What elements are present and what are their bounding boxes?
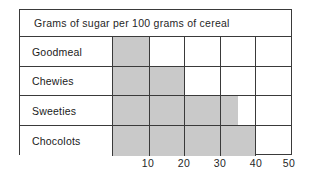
row-label-text: Chocolots	[20, 135, 81, 147]
sugar-content-bar-chart: Grams of sugar per 100 grams of cereal G…	[0, 0, 313, 182]
gridline-40	[255, 96, 256, 125]
x-tick-20: 20	[178, 157, 190, 169]
table-row: Sweeties	[20, 96, 291, 126]
chart-title: Grams of sugar per 100 grams of cereal	[20, 17, 230, 29]
gridline-30	[220, 67, 221, 95]
chart-title-row: Grams of sugar per 100 grams of cereal	[20, 10, 291, 37]
table-row: Chocolots	[20, 126, 291, 156]
bar-goodmeal	[113, 37, 149, 66]
gridline-10	[149, 96, 150, 125]
gridline-10	[149, 126, 150, 156]
chart-frame: Grams of sugar per 100 grams of cereal G…	[19, 9, 292, 155]
x-tick-30: 30	[214, 157, 226, 169]
row-label-sweeties: Sweeties	[20, 96, 113, 125]
gridline-40	[255, 37, 256, 66]
gridline-30	[220, 37, 221, 66]
chart-body: Goodmeal Chewies	[20, 37, 291, 156]
table-row: Goodmeal	[20, 37, 291, 67]
x-tick-10: 10	[142, 157, 154, 169]
gridline-20	[184, 67, 185, 95]
x-tick-50: 50	[283, 157, 295, 169]
gridline-20	[184, 37, 185, 66]
row-label-chewies: Chewies	[20, 67, 113, 95]
row-label-text: Chewies	[20, 75, 74, 87]
gridline-20	[184, 96, 185, 125]
gridline-40	[255, 67, 256, 95]
gridline-20	[184, 126, 185, 156]
row-plot-chewies	[113, 67, 291, 95]
row-plot-goodmeal	[113, 37, 291, 66]
table-row: Chewies	[20, 67, 291, 96]
row-label-text: Sweeties	[20, 105, 76, 117]
gridline-10	[149, 67, 150, 95]
row-label-goodmeal: Goodmeal	[20, 37, 113, 66]
gridline-30	[220, 96, 221, 125]
gridline-40	[255, 126, 256, 156]
row-plot-chocolots	[113, 126, 291, 156]
row-label-chocolots: Chocolots	[20, 126, 113, 156]
gridline-10	[149, 37, 150, 66]
row-plot-sweeties	[113, 96, 291, 125]
x-tick-40: 40	[250, 157, 262, 169]
gridline-30	[220, 126, 221, 156]
row-label-text: Goodmeal	[20, 46, 82, 58]
x-axis: 10 20 30 40 50	[19, 157, 292, 179]
